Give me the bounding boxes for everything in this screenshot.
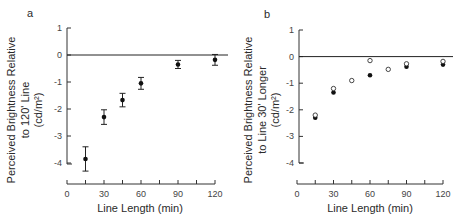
x-tick-label: 90 [173,189,183,199]
figure: a 10-1-2-3-40306090120 Line Length (min)… [0,0,457,221]
x-tick-label: 0 [64,189,69,199]
open-data-point [313,113,317,117]
filled-data-point [176,62,181,67]
y-tick-label: -2 [286,105,294,115]
svg-text:Perceived Brightness Relative: Perceived Brightness Relative [5,37,17,184]
svg-text:Perceived Brightness Relative: Perceived Brightness Relative [242,37,254,184]
panel-a-data-points [83,54,219,171]
y-tick-label: -4 [54,158,62,168]
panel-b-axes: 10-1-2-3-40306090120 [286,25,453,199]
y-tick-label: -3 [286,131,294,141]
panel-b-x-axis-title: Line Length (min) [327,202,413,214]
filled-data-point [213,58,218,63]
panel-a-label: a [27,7,34,19]
open-data-point [386,67,390,71]
panel-b-label: b [264,8,270,20]
svg-text:(cd/m²): (cd/m²) [269,93,281,128]
filled-data-point [120,98,125,103]
y-tick-label: -1 [286,78,294,88]
x-tick-label: 90 [401,189,411,199]
x-tick-label: 120 [435,189,450,199]
y-tick-label: -1 [54,77,62,87]
open-data-point [368,58,372,62]
open-data-point [404,62,408,66]
panel-a-x-axis-title: Line Length (min) [97,202,183,214]
y-tick-label: 0 [289,52,294,62]
panel-a-axes: 10-1-2-3-40306090120 [54,23,228,199]
open-data-point [331,86,335,90]
y-tick-label: 0 [57,50,62,60]
y-tick-label: -3 [54,131,62,141]
filled-data-point [368,73,373,78]
x-tick-label: 30 [328,189,338,199]
y-tick-label: -4 [286,158,294,168]
x-tick-label: 60 [136,189,146,199]
y-tick-label: -2 [54,104,62,114]
filled-data-point [102,115,107,120]
panel-b-y-axis-title: Perceived Brightness Relative to Line 30… [242,37,281,184]
panel-a-chart: a 10-1-2-3-40306090120 Line Length (min)… [5,7,228,214]
svg-text:to 120' Line: to 120' Line [19,82,31,139]
svg-text:to Line 30' Longer: to Line 30' Longer [256,66,268,154]
panel-b-data-points [313,58,445,120]
x-tick-label: 120 [207,189,222,199]
panel-b-chart: b 10-1-2-3-40306090120 Line Length (min)… [242,8,453,214]
y-tick-label: 1 [289,25,294,35]
svg-text:(cd/m²): (cd/m²) [32,93,44,128]
filled-data-point [139,81,144,86]
x-tick-label: 0 [294,189,299,199]
filled-data-point [83,157,88,162]
x-tick-label: 60 [365,189,375,199]
open-data-point [441,59,445,63]
y-tick-label: 1 [57,23,62,33]
panel-a-y-axis-title: Perceived Brightness Relative to 120' Li… [5,37,44,184]
open-data-point [350,78,354,82]
x-tick-label: 30 [99,189,109,199]
